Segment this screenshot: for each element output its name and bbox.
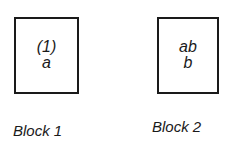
block-1-line-1: (1) xyxy=(16,39,77,55)
block-2-content: ab b xyxy=(159,39,217,71)
block-2-line-1: ab xyxy=(159,39,217,55)
block-2-box: ab b xyxy=(157,17,219,94)
block-2-label: Block 2 xyxy=(152,119,201,134)
block-1-label: Block 1 xyxy=(13,123,62,138)
block-2-line-2: b xyxy=(159,55,217,71)
block-1-box: (1) a xyxy=(14,17,79,94)
block-1-content: (1) a xyxy=(16,39,77,71)
block-1-line-2: a xyxy=(16,55,77,71)
